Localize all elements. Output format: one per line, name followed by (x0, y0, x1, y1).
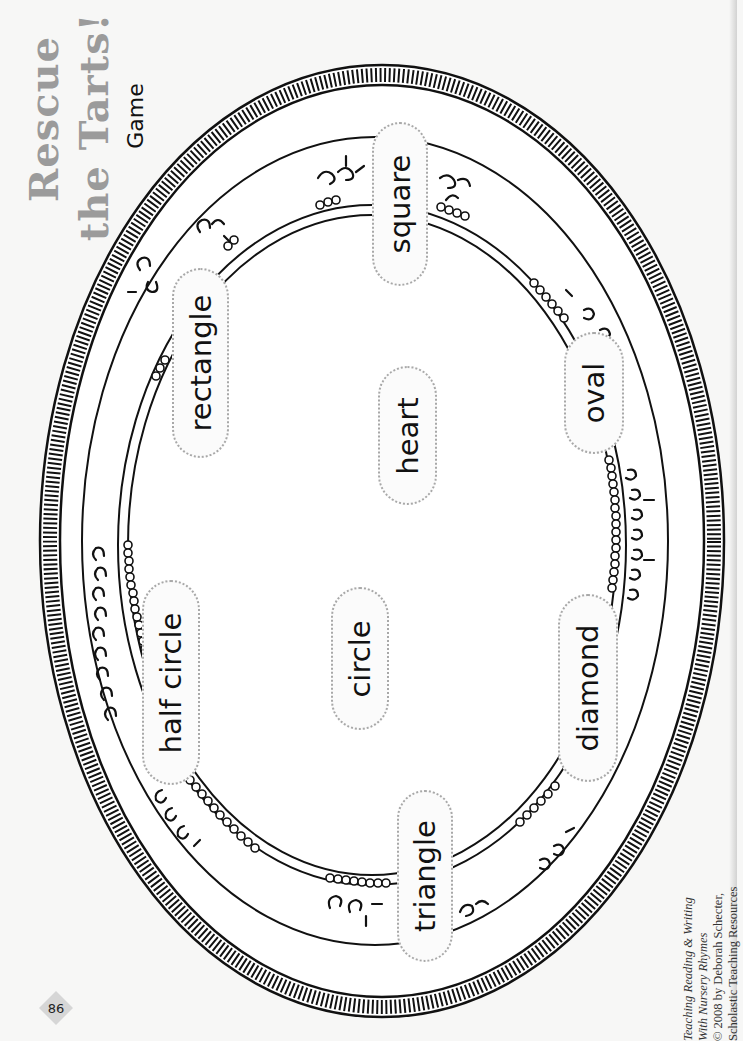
credits-block: Teaching Reading & Writing With Nursery … (681, 881, 743, 1041)
label-circle[interactable]: circle (331, 587, 389, 730)
credits-line-3: © 2008 by Deborah Schecter, (711, 881, 726, 1041)
label-square[interactable]: square (372, 122, 428, 286)
label-triangle[interactable]: triangle (397, 790, 453, 962)
credits-line-2: With Nursery Rhymes (696, 881, 711, 1041)
label-oval[interactable]: oval (564, 332, 624, 454)
label-text: circle (343, 620, 377, 697)
label-text: diamond (571, 624, 605, 751)
label-half-circle[interactable]: half circle (142, 580, 200, 785)
label-text: square (383, 155, 417, 254)
label-text: half circle (154, 612, 188, 753)
label-text: oval (577, 363, 611, 424)
credits-line-4: Scholastic Teaching Resources (726, 881, 741, 1041)
page-number-badge: 86 (36, 988, 76, 1028)
title-line-2: the Tarts! (74, 30, 112, 225)
title-line-1: Rescue (24, 37, 62, 202)
label-heart[interactable]: heart (378, 366, 437, 505)
label-text: rectangle (184, 295, 218, 432)
subtitle-game: Game (122, 71, 148, 161)
label-rectangle[interactable]: rectangle (172, 268, 229, 458)
page-number: 86 (36, 988, 76, 1028)
label-text: triangle (408, 820, 442, 932)
label-text: heart (391, 397, 425, 474)
credits-line-1: Teaching Reading & Writing (681, 881, 696, 1041)
label-diamond[interactable]: diamond (558, 594, 618, 782)
